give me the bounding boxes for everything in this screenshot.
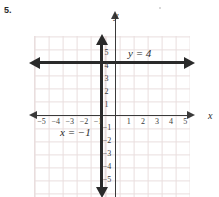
y-tick-label: 3	[105, 74, 115, 83]
x-axis	[34, 115, 190, 116]
line-y-equals-4-left-arrow-icon	[29, 57, 40, 69]
x-tick-label: −2	[78, 117, 90, 126]
x-tick-label: 2	[137, 117, 149, 126]
page-speck	[159, 7, 161, 9]
equation-label-x-equals-negative-1: x = −1	[60, 126, 91, 138]
coordinate-plane-graph: −5 −4 −3 −2 −1 1 2 3 4 5 5 4 3 2 1 −1 −2…	[34, 36, 190, 197]
x-tick-label: −3	[64, 117, 76, 126]
y-tick-label: −2	[103, 136, 113, 145]
y-tick-label: −3	[103, 149, 113, 158]
x-axis-label: x	[208, 110, 212, 121]
line-x-equals-negative-1-bottom-arrow-icon	[96, 187, 108, 197]
x-tick-label: 1	[123, 117, 135, 126]
x-tick-label: −4	[50, 117, 62, 126]
x-tick-label: 4	[165, 117, 177, 126]
equation-label-y-equals-4: y = 4	[128, 47, 151, 59]
y-tick-label: 4	[105, 61, 115, 70]
worksheet-page: 5. −5 −4 −3 −2 −1 1 2 3 4 5 5 4 3 2	[0, 0, 219, 197]
y-tick-label: −5	[103, 175, 113, 184]
y-tick-label: 5	[105, 48, 115, 57]
line-x-equals-negative-1-top-arrow-icon	[96, 34, 108, 45]
x-tick-label: 5	[179, 117, 191, 126]
line-y-equals-4-right-arrow-icon	[184, 57, 195, 69]
y-axis-label: y	[114, 10, 118, 21]
x-tick-label: 3	[151, 117, 163, 126]
y-tick-label: 1	[105, 100, 115, 109]
y-tick-label: 2	[105, 87, 115, 96]
y-tick-label: −1	[103, 123, 113, 132]
y-axis	[115, 14, 116, 197]
problem-number: 5.	[4, 5, 12, 15]
x-tick-label: −5	[36, 117, 48, 126]
y-tick-label: −4	[103, 162, 113, 171]
